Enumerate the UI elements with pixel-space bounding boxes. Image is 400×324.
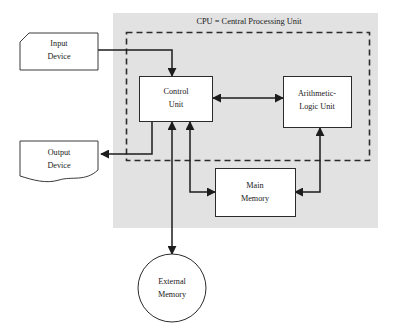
- input-device-label-line1: Input: [50, 39, 68, 48]
- external-memory-label-line2: Memory: [158, 290, 187, 299]
- node-main-memory[interactable]: Main Memory: [216, 169, 296, 217]
- input-device-label-line2: Device: [47, 52, 71, 61]
- computer-architecture-diagram: CPU = Central Processing Unit: [0, 0, 400, 324]
- control-unit-label-line1: Control: [163, 87, 189, 96]
- alu-label-line1: Arithmetic-: [298, 89, 336, 98]
- node-control-unit[interactable]: Control Unit: [140, 77, 213, 122]
- main-memory-label-line2: Memory: [241, 194, 270, 203]
- alu-label-line2: Logic Unit: [299, 102, 335, 111]
- node-output-device[interactable]: Output Device: [20, 141, 98, 182]
- node-input-device[interactable]: Input Device: [20, 33, 98, 70]
- node-arithmetic-logic-unit[interactable]: Arithmetic- Logic Unit: [284, 77, 352, 128]
- output-device-label-line2: Device: [47, 161, 71, 170]
- external-memory-label-line1: External: [158, 277, 186, 286]
- control-unit-label-line2: Unit: [169, 100, 184, 109]
- node-external-memory[interactable]: External Memory: [138, 254, 206, 322]
- output-device-label-line1: Output: [48, 148, 71, 157]
- cpu-title-label: CPU = Central Processing Unit: [196, 17, 302, 26]
- main-memory-label-line1: Main: [246, 181, 263, 190]
